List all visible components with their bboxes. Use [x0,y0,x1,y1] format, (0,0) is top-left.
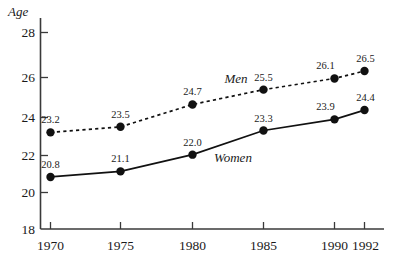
x-tick-label-1985: 1985 [250,238,277,253]
value-label-women-1980: 22.0 [183,137,201,148]
series-markers-women [46,106,368,181]
value-label-men-1975: 23.5 [111,109,129,120]
chart-canvas: Age 28 26 24 22 20 18 1970 1975 1980 198… [0,0,393,266]
value-label-women-1975: 21.1 [111,153,129,164]
y-tick-label-28: 28 [22,25,36,40]
value-label-men-1990: 26.1 [316,60,334,71]
data-point-men-1970 [46,128,54,136]
data-point-women-1990 [330,115,338,123]
data-point-men-1980 [188,100,196,108]
data-point-women-1992 [360,106,368,114]
y-tick-label-24: 24 [22,110,36,125]
data-point-men-1985 [259,85,267,93]
value-label-men-1980: 24.7 [183,86,201,97]
y-tick-label-22: 22 [22,148,36,163]
x-tick-label-1970: 1970 [37,238,64,253]
data-point-men-1990 [330,74,338,82]
age-at-first-marriage-chart: Age 28 26 24 22 20 18 1970 1975 1980 198… [0,0,393,266]
value-label-women-1990: 23.9 [316,101,334,112]
series-value-labels-men: 23.223.524.725.526.126.5 [41,53,374,125]
x-tick-marks [51,222,365,229]
data-point-men-1975 [116,123,124,131]
value-label-men-1985: 25.5 [254,72,272,83]
series-value-labels-women: 20.821.122.023.323.924.4 [41,92,375,170]
value-label-men-1970: 23.2 [41,114,59,125]
value-label-women-1970: 20.8 [41,159,59,170]
x-tick-label-1992: 1992 [352,238,379,253]
data-point-women-1975 [116,167,124,175]
data-point-women-1970 [46,173,54,181]
y-tick-label-20: 20 [22,185,36,200]
series-annotation-women: Women [214,150,252,165]
x-tick-label-1990: 1990 [321,238,348,253]
data-point-women-1985 [259,126,267,134]
series-annotation-men: Men [223,71,247,86]
data-point-men-1992 [360,67,368,75]
y-axis-title: Age [7,4,28,19]
series-line-women [51,110,365,177]
x-tick-label-1980: 1980 [179,238,206,253]
data-point-women-1980 [188,150,196,158]
x-tick-label-1975: 1975 [107,238,134,253]
value-label-men-1992: 26.5 [356,53,374,64]
y-tick-label-26: 26 [22,70,36,85]
value-label-women-1985: 23.3 [254,113,272,124]
y-tick-label-18: 18 [22,222,36,237]
value-label-women-1992: 24.4 [356,92,375,103]
